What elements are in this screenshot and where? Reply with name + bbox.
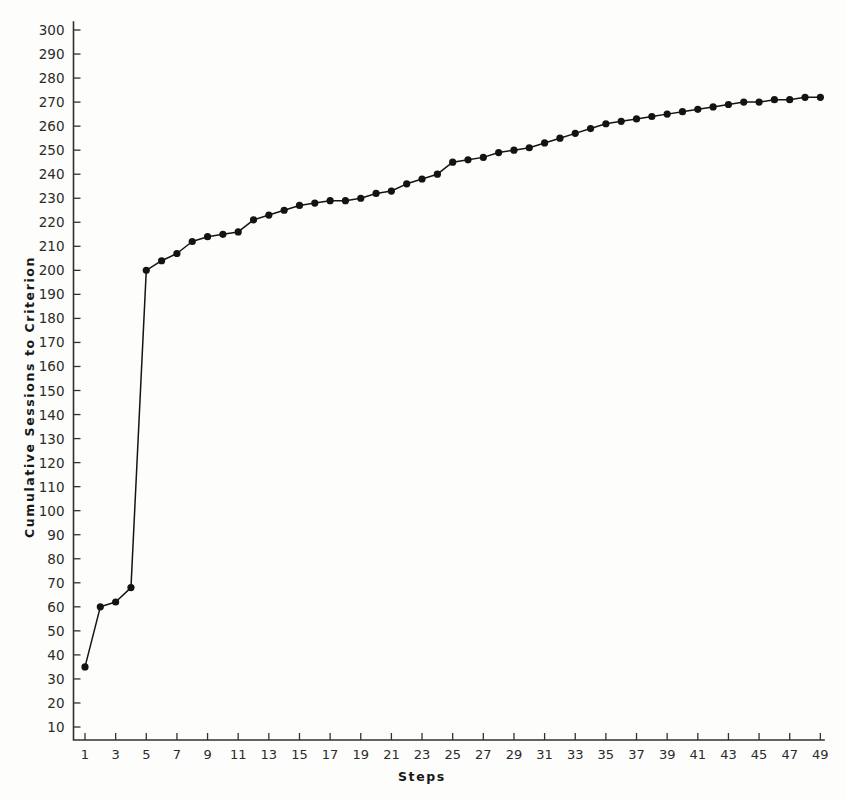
y-tick-label: 120	[39, 455, 65, 471]
data-point-marker	[281, 207, 288, 214]
data-point-marker	[464, 156, 471, 163]
x-tick-label: 29	[506, 747, 523, 762]
data-point-marker	[801, 94, 808, 101]
data-point-marker	[771, 96, 778, 103]
y-tick-label: 70	[47, 575, 64, 591]
x-tick-label: 5	[142, 747, 150, 762]
x-tick-label: 41	[690, 747, 707, 762]
data-point-marker	[189, 238, 196, 245]
x-tick-label: 19	[352, 747, 369, 762]
x-tick-label: 37	[628, 747, 645, 762]
y-axis-title: Cumulative Sessions to Criterion	[22, 256, 37, 538]
data-point-marker	[265, 211, 272, 218]
data-point-marker	[495, 149, 502, 156]
data-point-marker	[679, 108, 686, 115]
x-tick-label: 27	[475, 747, 492, 762]
y-tick-label: 260	[39, 118, 65, 134]
x-tick-label: 47	[781, 747, 798, 762]
chart-figure: 1020304050607080901001101201301401501601…	[0, 0, 846, 799]
x-tick-label: 21	[383, 747, 400, 762]
data-point-marker	[327, 197, 334, 204]
data-point-marker	[449, 159, 456, 166]
x-axis-ticks: 1357911131517192123252729313335373941434…	[81, 733, 829, 762]
data-point-marker	[403, 180, 410, 187]
y-tick-label: 240	[39, 166, 65, 182]
data-point-marker	[250, 216, 257, 223]
x-tick-label: 1	[81, 747, 89, 762]
y-tick-label: 250	[39, 142, 65, 158]
data-point-marker	[633, 115, 640, 122]
axis-lines	[74, 22, 825, 740]
y-tick-label: 110	[39, 479, 65, 495]
x-tick-label: 17	[322, 747, 339, 762]
x-tick-label: 15	[291, 747, 308, 762]
data-point-marker	[296, 202, 303, 209]
x-axis-title: Steps	[398, 769, 446, 784]
x-tick-label: 13	[261, 747, 278, 762]
x-tick-label: 39	[659, 747, 676, 762]
y-tick-label: 90	[47, 527, 64, 543]
y-tick-label: 210	[39, 238, 65, 254]
data-point-marker	[81, 663, 88, 670]
x-tick-label: 25	[444, 747, 461, 762]
data-point-marker	[526, 144, 533, 151]
y-tick-label: 50	[47, 623, 64, 639]
data-point-marker	[755, 99, 762, 106]
data-point-marker	[235, 228, 242, 235]
line-chart-plot: 1020304050607080901001101201301401501601…	[0, 0, 846, 799]
y-tick-label: 280	[39, 70, 65, 86]
y-tick-label: 150	[39, 383, 65, 399]
data-point-marker	[786, 96, 793, 103]
y-tick-label: 40	[47, 647, 64, 663]
data-point-marker	[158, 257, 165, 264]
data-point-marker	[710, 103, 717, 110]
data-series-line	[85, 97, 820, 667]
y-tick-label: 270	[39, 94, 65, 110]
y-tick-label: 230	[39, 190, 65, 206]
data-point-marker	[510, 147, 517, 154]
data-point-marker	[97, 603, 104, 610]
data-point-marker	[342, 197, 349, 204]
y-tick-label: 30	[47, 671, 64, 687]
y-tick-label: 130	[39, 431, 65, 447]
x-tick-label: 9	[203, 747, 211, 762]
y-tick-label: 200	[39, 262, 65, 278]
data-point-marker	[541, 139, 548, 146]
data-point-marker	[556, 135, 563, 142]
data-series-markers	[81, 94, 824, 671]
x-tick-label: 31	[536, 747, 553, 762]
data-point-marker	[112, 598, 119, 605]
data-point-marker	[618, 118, 625, 125]
x-tick-label: 49	[812, 747, 829, 762]
y-tick-label: 20	[47, 695, 64, 711]
data-point-marker	[817, 94, 824, 101]
data-point-marker	[434, 171, 441, 178]
data-point-marker	[664, 111, 671, 118]
data-point-marker	[648, 113, 655, 120]
x-tick-label: 3	[111, 747, 119, 762]
data-point-marker	[357, 195, 364, 202]
y-tick-label: 80	[47, 551, 64, 567]
data-point-marker	[204, 233, 211, 240]
x-tick-label: 45	[751, 747, 768, 762]
y-tick-label: 100	[39, 503, 65, 519]
x-tick-label: 33	[567, 747, 584, 762]
y-tick-label: 170	[39, 334, 65, 350]
y-tick-label: 190	[39, 286, 65, 302]
data-point-marker	[311, 199, 318, 206]
data-point-marker	[694, 106, 701, 113]
y-tick-label: 10	[47, 719, 64, 735]
data-point-marker	[725, 101, 732, 108]
x-tick-label: 7	[173, 747, 181, 762]
x-tick-label: 35	[598, 747, 615, 762]
data-point-marker	[219, 231, 226, 238]
data-point-marker	[480, 154, 487, 161]
y-tick-label: 290	[39, 46, 65, 62]
data-point-marker	[587, 125, 594, 132]
data-point-marker	[388, 187, 395, 194]
y-tick-label: 300	[39, 22, 65, 38]
x-tick-label: 43	[720, 747, 737, 762]
x-tick-label: 11	[230, 747, 247, 762]
data-point-marker	[173, 250, 180, 257]
data-point-marker	[143, 267, 150, 274]
